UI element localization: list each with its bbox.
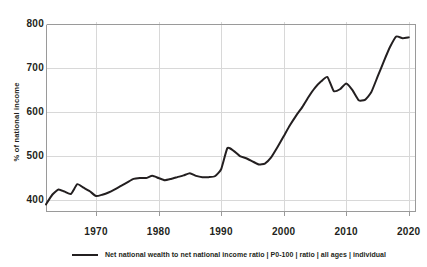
data-series-layer <box>46 36 409 204</box>
axis-frame <box>47 25 416 216</box>
plot-area <box>0 0 427 267</box>
chart-legend: Net national wealth to net national inco… <box>72 251 386 258</box>
data-line-series-0 <box>46 36 409 204</box>
legend-line-swatch <box>72 254 98 256</box>
gridlines <box>46 22 415 211</box>
chart-container: % of national income 800700600500400 197… <box>0 0 427 267</box>
legend-entry-label: Net national wealth to net national inco… <box>105 251 386 258</box>
